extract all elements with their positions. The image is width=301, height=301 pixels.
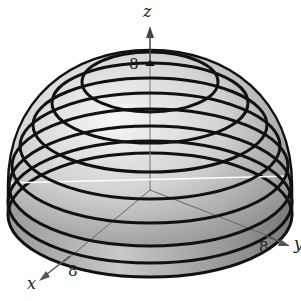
hemisphere-diagram: z 8 x 8 y 8 bbox=[0, 0, 301, 301]
hemisphere-svg bbox=[0, 0, 301, 301]
y-axis-label: y bbox=[294, 236, 301, 252]
z-tick-label: 8 bbox=[129, 57, 139, 72]
z-axis-label: z bbox=[143, 4, 151, 20]
x-axis-label: x bbox=[27, 276, 36, 292]
y-axis-arrow-icon bbox=[278, 239, 290, 246]
z-axis-arrow-icon bbox=[146, 26, 154, 38]
y-tick-label: 8 bbox=[259, 240, 269, 255]
x-tick-label: 8 bbox=[68, 264, 78, 279]
